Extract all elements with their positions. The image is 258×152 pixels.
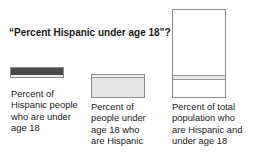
diagram-title: “Percent Hispanic under age 18”? <box>9 27 171 38</box>
label-line: age 18 who <box>91 124 146 135</box>
label-line: people under <box>91 112 146 123</box>
label-line: Hispanic people <box>11 99 78 110</box>
hispanic-under-18-stripe <box>173 75 225 80</box>
label-line: Percent of total <box>172 101 242 112</box>
people-under-18-box <box>91 74 145 98</box>
panel-3-label: Percent of total population who are Hisp… <box>172 101 242 146</box>
label-line: under age 18 <box>172 135 242 146</box>
label-line: age 18 <box>11 122 78 133</box>
label-line: are Hispanic and <box>172 124 242 135</box>
panel-2-label: Percent of people under age 18 who are H… <box>91 101 146 146</box>
label-line: Percent of <box>91 101 146 112</box>
label-line: who are under <box>11 111 78 122</box>
total-population-box <box>172 9 226 98</box>
under-18-share-fill <box>11 68 63 75</box>
hispanic-share-stripe <box>92 75 144 78</box>
label-line: population who <box>172 112 242 123</box>
label-line: Percent of <box>11 88 78 99</box>
label-line: are Hispanic <box>91 135 146 146</box>
panel-1-label: Percent of Hispanic people who are under… <box>11 88 78 133</box>
hispanic-people-bar <box>10 67 64 78</box>
